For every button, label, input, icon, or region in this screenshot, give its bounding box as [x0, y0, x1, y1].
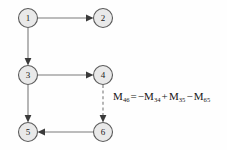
node-4[interactable]: 4 [94, 66, 113, 85]
node-4-label: 4 [101, 70, 106, 80]
edge-1-to-2 [38, 15, 94, 22]
edge-1-to-2-arrowhead [86, 15, 94, 22]
diagram-canvas: 1 2 3 4 5 6 M46=−M34+M35−M65 [0, 0, 227, 150]
edge-4-to-6 [100, 85, 107, 123]
equation-lhs-subscript: 46 [123, 96, 130, 103]
node-6-label: 6 [101, 127, 106, 137]
node-5[interactable]: 5 [19, 123, 38, 142]
equation-term1-subscript: 34 [154, 96, 161, 103]
equation-term2-symbol: M [169, 90, 179, 102]
node-1-label: 1 [26, 13, 31, 23]
node-1[interactable]: 1 [19, 9, 38, 28]
node-2[interactable]: 2 [94, 9, 113, 28]
equation-term3-symbol: M [194, 90, 204, 102]
edge-1-to-3 [25, 28, 32, 66]
edge-6-to-5-arrowhead [38, 129, 46, 136]
node-6[interactable]: 6 [94, 123, 113, 142]
equation-annotation: M46=−M34+M35−M65 [113, 90, 210, 102]
edge-6-to-5 [38, 129, 94, 136]
equation-lhs-symbol: M [113, 90, 123, 102]
equation-term2-subscript: 35 [179, 96, 186, 103]
edge-4-to-6-arrowhead [100, 115, 107, 123]
node-2-label: 2 [101, 13, 106, 23]
edge-3-to-4 [38, 72, 94, 79]
equation-term1-symbol: M [144, 90, 154, 102]
equation-equals: = [129, 90, 137, 102]
node-3[interactable]: 3 [19, 66, 38, 85]
node-3-label: 3 [26, 70, 31, 80]
equation-term3-subscript: 65 [204, 96, 211, 103]
edge-3-to-5 [25, 85, 32, 123]
edge-3-to-5-arrowhead [25, 115, 32, 123]
edge-3-to-4-arrowhead [86, 72, 94, 79]
equation-term3-sign: − [185, 90, 193, 102]
node-5-label: 5 [26, 127, 31, 137]
equation-term2-sign: + [161, 90, 169, 102]
edge-1-to-3-arrowhead [25, 58, 32, 66]
graph-svg: 1 2 3 4 5 6 [0, 0, 227, 150]
